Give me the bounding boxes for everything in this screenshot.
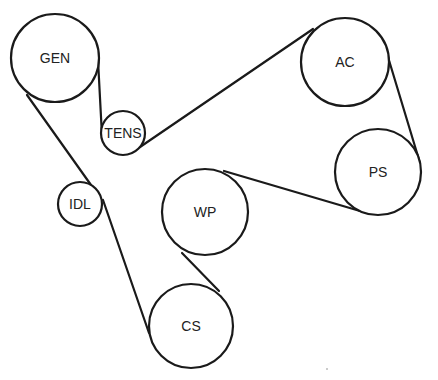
pulley-group: GENTENSACPSWPCSIDL [11, 14, 421, 368]
pulley-tens: TENS [101, 111, 145, 155]
pulley-gen: GEN [11, 14, 99, 102]
pulley-label-gen: GEN [40, 50, 70, 66]
pulley-ac: AC [301, 18, 389, 106]
pulley-label-wp: WP [194, 204, 217, 220]
pulley-cs: CS [149, 284, 233, 368]
belt-segment-tens-to-ac [140, 29, 313, 147]
pulley-label-idl: IDL [69, 196, 91, 212]
belt-segment-idl-to-gen [27, 95, 91, 185]
pulley-ps: PS [335, 129, 421, 215]
pulley-label-tens: TENS [104, 125, 141, 141]
pulley-label-cs: CS [181, 318, 200, 334]
belt-segment-gen-to-tens [98, 60, 102, 136]
belt-segment-cs-to-idl [103, 200, 149, 333]
scan-speck [326, 368, 328, 370]
pulley-label-ac: AC [335, 54, 354, 70]
pulley-label-ps: PS [369, 164, 388, 180]
pulley-wp: WP [162, 169, 248, 255]
pulley-idl: IDL [58, 182, 102, 226]
belt-routing-diagram: GENTENSACPSWPCSIDL [0, 0, 438, 380]
